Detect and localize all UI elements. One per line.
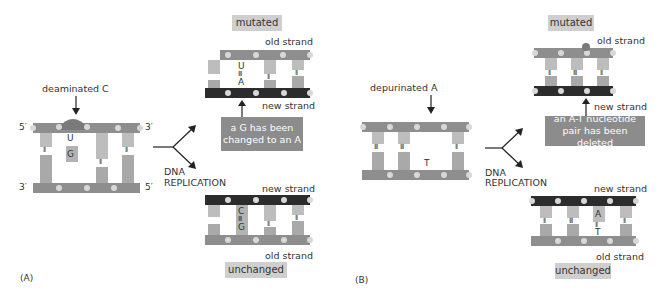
base-a: A bbox=[238, 77, 244, 87]
new-strand-label-bottom: new strand bbox=[262, 183, 315, 194]
new-strand-bottom bbox=[531, 196, 636, 206]
five-prime-label-bottom: 5′ bbox=[145, 182, 153, 192]
depurinated-a-label: depurinated A bbox=[370, 82, 437, 93]
old-strand-label-bottom: old strand bbox=[265, 250, 313, 261]
new-strand-label: new strand bbox=[594, 101, 647, 112]
unchanged-tag: unchanged bbox=[225, 262, 287, 278]
new-strand bbox=[534, 86, 613, 96]
up-arrow-icon bbox=[238, 100, 246, 118]
dna-label: DNA bbox=[164, 166, 185, 177]
deaminated-c-label: deaminated C bbox=[42, 83, 109, 94]
damaged-base-u: U bbox=[67, 133, 74, 143]
base-g: G bbox=[238, 222, 245, 232]
three-prime-label-top: 3′ bbox=[145, 122, 153, 132]
bottom-strand bbox=[33, 183, 140, 193]
three-prime-label-bottom: 3′ bbox=[19, 182, 27, 192]
base-a: A bbox=[595, 209, 601, 219]
replication-fork-arrow-icon bbox=[485, 128, 525, 168]
deletion-loop bbox=[580, 41, 592, 51]
deletion-note: an A-T nucleotidepair has been deleted bbox=[545, 116, 645, 146]
down-arrow-icon bbox=[427, 95, 435, 115]
replication-label: REPLICATION bbox=[485, 177, 547, 188]
mutated-tag: mutated bbox=[232, 15, 282, 31]
new-strand-bottom bbox=[205, 195, 310, 205]
old-strand-label: old strand bbox=[597, 35, 645, 46]
new-strand-label-bottom: new strand bbox=[594, 183, 647, 194]
replication-label: REPLICATION bbox=[164, 177, 226, 188]
five-prime-label-top: 5′ bbox=[19, 122, 27, 132]
old-strand-label: old strand bbox=[265, 36, 313, 47]
old-strand bbox=[534, 48, 613, 58]
old-strand-bottom bbox=[531, 236, 636, 246]
new-strand bbox=[205, 88, 310, 98]
bottom-strand bbox=[362, 170, 469, 180]
unchanged-tag: unchanged bbox=[555, 263, 611, 279]
old-strand-label-bottom: old strand bbox=[596, 251, 644, 262]
top-strand bbox=[362, 122, 469, 132]
down-arrow-icon bbox=[72, 96, 80, 116]
mutation-note: a G has beenchanged to an A bbox=[221, 117, 303, 151]
old-strand-bottom bbox=[205, 235, 310, 245]
mutated-tag: mutated bbox=[548, 15, 594, 31]
orphan-base-t: T bbox=[424, 158, 430, 168]
panel-a-label: (A) bbox=[20, 273, 33, 283]
panel-b-label: (B) bbox=[355, 275, 368, 285]
old-strand bbox=[220, 50, 310, 60]
partner-base-g: G bbox=[67, 149, 74, 159]
replication-fork-arrow-icon bbox=[153, 125, 198, 170]
new-strand-label: new strand bbox=[262, 100, 315, 111]
deaminated-bulge bbox=[58, 114, 88, 130]
